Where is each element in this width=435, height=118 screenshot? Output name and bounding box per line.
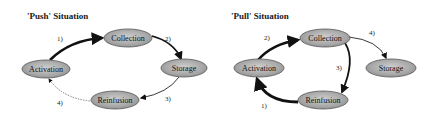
- push-edge-reinfusion-activation: [49, 79, 90, 101]
- pull-node-storage-label: Storage: [379, 64, 404, 73]
- push-node-storage-label: Storage: [172, 64, 197, 73]
- push-diagram: 'Push' Situation Collection Storage Acti…: [22, 11, 207, 109]
- pull-step-4: 4): [369, 29, 376, 37]
- pull-step-2: 2): [264, 34, 271, 42]
- push-step-2: 2): [165, 35, 172, 43]
- push-node-collection-label: Collection: [111, 34, 144, 43]
- push-node-storage: Storage: [161, 59, 207, 77]
- push-step-4: 4): [57, 99, 64, 107]
- pull-step-3: 3): [336, 64, 343, 72]
- pull-node-reinfusion-label: Reinfusion: [305, 96, 340, 105]
- pull-edge-activation-collection: [258, 40, 298, 60]
- diagram-canvas: 'Push' Situation Collection Storage Acti…: [0, 0, 435, 118]
- push-edge-storage-reinfusion: [141, 77, 179, 98]
- pull-diagram: 'Pull' Situation Collection Storage Acti…: [231, 11, 416, 110]
- pull-node-storage: Storage: [366, 59, 416, 77]
- pull-edge-reinfusion-activation: [257, 79, 298, 102]
- pull-edge-collection-reinfusion: [342, 43, 350, 92]
- pull-edge-collection-storage: [349, 37, 386, 58]
- push-node-collection: Collection: [104, 29, 152, 47]
- push-node-activation-label: Activation: [29, 65, 63, 74]
- push-node-reinfusion-label: Reinfusion: [97, 96, 132, 105]
- pull-node-collection-label: Collection: [308, 34, 341, 43]
- pull-step-1: 1): [261, 102, 268, 110]
- pull-node-reinfusion: Reinfusion: [298, 91, 348, 109]
- pull-node-activation-label: Activation: [242, 64, 276, 73]
- push-node-reinfusion: Reinfusion: [91, 91, 139, 109]
- push-step-3: 3): [165, 95, 172, 103]
- pull-node-activation: Activation: [234, 59, 284, 77]
- push-title: 'Push' Situation: [27, 11, 88, 21]
- push-step-1: 1): [57, 35, 64, 43]
- pull-title: 'Pull' Situation: [231, 11, 289, 21]
- pull-node-collection: Collection: [300, 29, 350, 47]
- push-node-activation: Activation: [22, 60, 70, 78]
